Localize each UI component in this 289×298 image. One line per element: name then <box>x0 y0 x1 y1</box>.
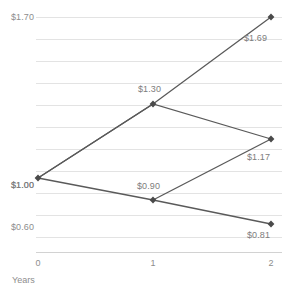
x-axis-tick-1: 1 <box>143 258 163 268</box>
chart-canvas <box>0 0 289 298</box>
point-label-1-17: $1.17 <box>247 152 270 162</box>
x-axis-tick-0: 0 <box>28 258 48 268</box>
y-axis-label-top: $1.70 <box>11 12 34 22</box>
series-middle <box>38 104 271 178</box>
data-markers <box>35 14 275 228</box>
series-upper <box>38 17 271 178</box>
point-label-1-30: $1.30 <box>138 84 161 94</box>
y-axis-label-bottom: $0.60 <box>11 222 34 232</box>
point-label-1-69: $1.69 <box>244 33 267 43</box>
gridlines <box>36 17 282 237</box>
series-recovery <box>153 139 271 200</box>
point-label-0-90: $0.90 <box>137 181 160 191</box>
line-chart: $1.70 $1.00 $0.60 $1.69 $1.30 $1.17 $1.0… <box>0 0 289 298</box>
point-label-1-00: $1.00 <box>11 180 34 190</box>
x-axis-title: Years <box>12 275 35 285</box>
point-label-0-81: $0.81 <box>247 230 270 240</box>
x-axis-tick-2: 2 <box>261 258 281 268</box>
